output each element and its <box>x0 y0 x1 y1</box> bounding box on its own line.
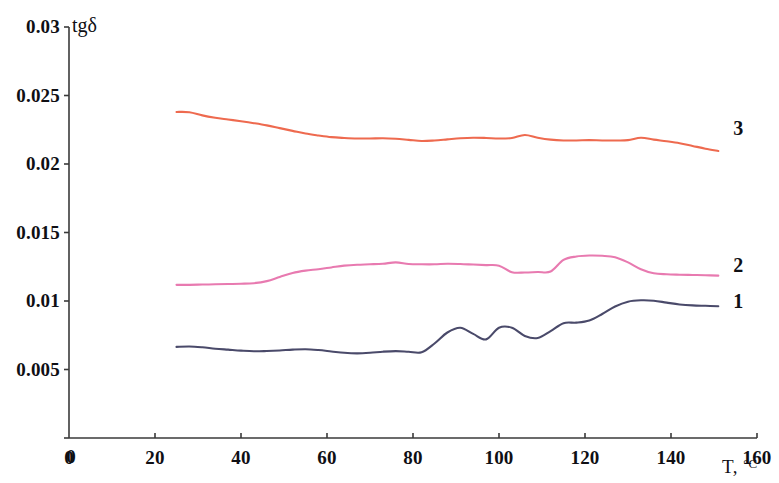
series-layer <box>177 112 719 353</box>
x-tick-label: 20 <box>145 447 164 469</box>
x-axis-title-text: T, <box>722 456 743 477</box>
y-tick-label: 0.005 <box>16 359 60 381</box>
x-tick-label: 0 <box>64 447 74 469</box>
x-tick-label: 80 <box>403 447 422 469</box>
y-tick-label: 0.02 <box>26 153 60 175</box>
series-label-2: 2 <box>733 253 743 276</box>
series-line-1 <box>177 300 719 353</box>
x-tick-label: 60 <box>317 447 336 469</box>
x-tick-label: 100 <box>484 447 513 469</box>
y-tick-label: 0.025 <box>16 85 60 107</box>
x-tick-label: 120 <box>570 447 599 469</box>
chart-plot-area <box>0 0 779 483</box>
y-tick-label: 0.01 <box>26 290 60 312</box>
x-tick-label: 40 <box>231 447 250 469</box>
y-axis-title: tgδ <box>72 14 97 37</box>
series-line-3 <box>177 112 719 151</box>
x-tick-label: 160 <box>742 447 771 469</box>
chart-figure: tgδ T, °C 00.0050.010.0150.020.0250.03 0… <box>0 0 779 483</box>
x-tick-label: 140 <box>656 447 685 469</box>
series-line-2 <box>177 255 719 284</box>
series-label-1: 1 <box>733 290 743 313</box>
y-tick-label: 0.03 <box>26 16 60 38</box>
series-label-3: 3 <box>733 117 743 140</box>
y-tick-label: 0.015 <box>16 222 60 244</box>
axis-layer <box>64 27 757 438</box>
